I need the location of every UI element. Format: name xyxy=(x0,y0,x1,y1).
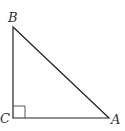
triangle-abc xyxy=(13,27,109,118)
vertex-label-b: B xyxy=(7,10,18,25)
vertex-label-c: C xyxy=(0,111,10,126)
right-angle-marker xyxy=(13,106,25,118)
vertex-label-a: A xyxy=(110,112,120,127)
triangle-diagram: B C A xyxy=(0,0,125,131)
